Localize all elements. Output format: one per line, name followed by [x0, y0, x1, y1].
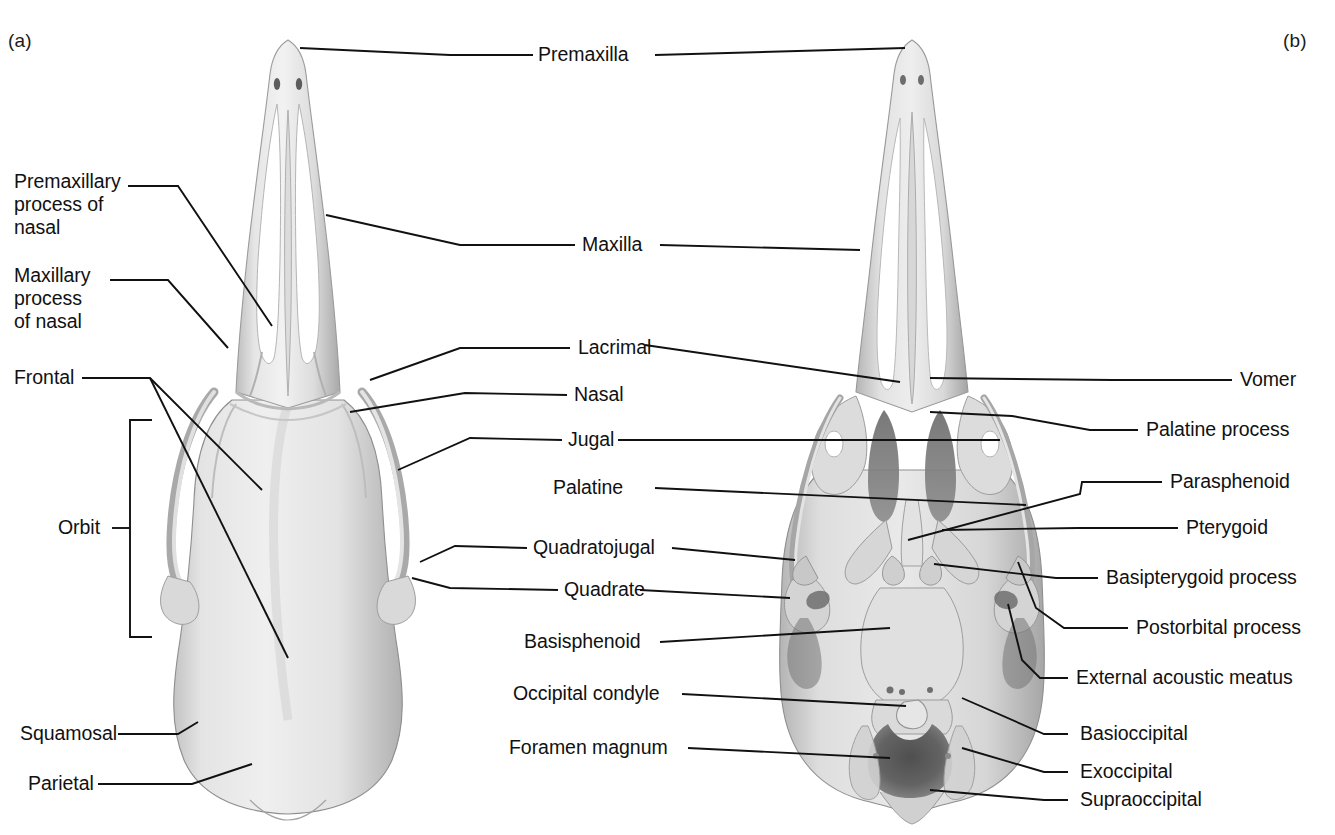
label-premaxillary-process-of-nasal: Premaxillary process of nasal	[14, 170, 121, 239]
label-quadratojugal: Quadratojugal	[533, 536, 655, 559]
ventral-condylar-pit-right	[945, 753, 951, 759]
ventral-parasphenoid	[901, 500, 923, 566]
label-external-acoustic-meatus: External acoustic meatus	[1076, 666, 1293, 689]
ventral-foramen-small-2	[899, 689, 905, 695]
label-palatine-process: Palatine process	[1146, 418, 1289, 441]
label-basioccipital: Basioccipital	[1080, 722, 1188, 745]
label-exoccipital: Exoccipital	[1080, 760, 1173, 783]
label-supraoccipital: Supraoccipital	[1080, 788, 1202, 811]
dorsal-naris-left	[274, 78, 280, 90]
ventral-naris-right	[918, 75, 924, 85]
label-parietal: Parietal	[28, 772, 94, 795]
panel-letter-a: (a)	[8, 30, 32, 52]
label-basipterygoid-process: Basipterygoid process	[1106, 566, 1297, 589]
ventral-occipital-condyle	[897, 700, 928, 729]
label-quadrate: Quadrate	[564, 578, 645, 601]
label-jugal: Jugal	[568, 428, 614, 451]
ventral-choana-right	[925, 410, 956, 522]
dorsal-cranium	[174, 400, 403, 814]
skull-ventral-view	[780, 40, 1045, 824]
ventral-palatine-fenestra-left	[825, 431, 843, 457]
label-postorbital-process: Postorbital process	[1136, 616, 1301, 639]
label-parasphenoid: Parasphenoid	[1170, 470, 1290, 493]
label-pterygoid: Pterygoid	[1186, 516, 1268, 539]
panel-letter-b: (b)	[1283, 30, 1307, 52]
anatomical-figure: (a) (b) Premaxillary process of nasal Ma…	[0, 0, 1335, 835]
label-orbit: Orbit	[58, 516, 100, 539]
label-palatine: Palatine	[553, 476, 623, 499]
label-vomer: Vomer	[1240, 368, 1296, 391]
skull-artwork	[0, 0, 1335, 835]
label-maxillary-process-of-nasal: Maxillary process of nasal	[14, 264, 90, 333]
ventral-condylar-pit-left	[873, 753, 879, 759]
ventral-foramen-small-1	[887, 687, 894, 694]
label-maxilla: Maxilla	[582, 233, 642, 256]
label-premaxilla: Premaxilla	[538, 43, 629, 66]
label-nasal: Nasal	[574, 383, 624, 406]
skull-dorsal-view	[161, 40, 416, 820]
dorsal-naris-right	[296, 78, 302, 90]
ventral-basisphenoid-plate	[861, 588, 963, 710]
label-squamosal: Squamosal	[20, 722, 117, 745]
ventral-choana-left	[868, 410, 899, 522]
ventral-palatine-fenestra-right	[981, 431, 999, 457]
label-foramen-magnum: Foramen magnum	[509, 736, 668, 759]
label-lacrimal: Lacrimal	[578, 336, 651, 359]
ventral-foramen-small-3	[927, 687, 933, 693]
label-frontal: Frontal	[14, 366, 74, 389]
label-occipital-condyle: Occipital condyle	[513, 682, 660, 705]
ventral-naris-left	[900, 75, 906, 85]
label-basisphenoid: Basisphenoid	[524, 630, 641, 653]
